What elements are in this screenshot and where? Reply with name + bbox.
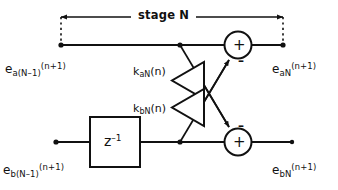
input-signal-b-label: eb(N–1)(n+1) [3,163,64,178]
adder-upper-minus-port: – [238,55,244,67]
delay-block-label: z–1 [104,134,122,148]
lattice-stage-diagram: stage N ea(N–1)(n+1) eaN(n+1) eb(N–1)(n+… [0,0,338,190]
gain-label-upper: kaN(n) [133,66,166,79]
adder-lower-minus-port: – [238,120,244,132]
lower-input-node [53,139,58,144]
branch-cross-overlay-up [204,60,229,102]
adder-upper-plus: + [233,38,246,53]
output-signal-b-label: ebN(n+1) [272,163,316,178]
output-signal-b-sup: (n+1) [291,162,316,172]
lower-output-node [290,140,294,144]
gain-upper-tail: (n) [150,65,166,78]
output-signal-a-label: eaN(n+1) [272,62,316,77]
branch-cross-overlay-down [204,85,229,127]
input-signal-b-sup: (n+1) [39,162,64,172]
lower-signal-path [53,117,294,167]
output-signal-b-sub: bN [279,169,291,179]
gain-lower-sub: bN [139,107,150,116]
input-signal-a-sub: a(N–1) [12,68,40,78]
delay-sup: –1 [111,133,121,143]
stage-bracket-label: stage N [138,10,189,22]
upper-output-node [280,42,285,47]
output-signal-a-sup: (n+1) [291,61,316,71]
gain-lower-tail: (n) [150,102,166,115]
input-signal-a-label: ea(N–1)(n+1) [5,62,66,77]
input-signal-b-sub: b(N–1) [10,169,39,179]
adder-lower-plus: + [233,135,246,150]
gain-upper-sub: aN [139,70,150,79]
gain-triangle-lower [172,89,204,126]
cross-coupling-branches [172,45,229,142]
upper-input-node [58,42,63,47]
output-signal-a-sub: aN [279,68,291,78]
gain-label-lower: kbN(n) [133,103,166,116]
input-signal-a-sup: (n+1) [41,61,66,71]
